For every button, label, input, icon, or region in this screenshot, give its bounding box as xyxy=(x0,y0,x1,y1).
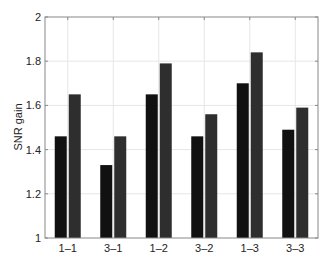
y-axis-title: SNR gain xyxy=(12,103,24,150)
y-tick-label: 1.6 xyxy=(26,99,41,111)
y-tick-label: 1.8 xyxy=(26,55,41,67)
bar-series-2 xyxy=(251,52,263,238)
bars xyxy=(55,52,309,238)
x-tick-label: 3–1 xyxy=(104,242,122,254)
x-tick-label: 1–2 xyxy=(150,242,168,254)
gridlines xyxy=(45,17,318,238)
bar-series-2 xyxy=(296,108,308,238)
bar-series-1 xyxy=(282,130,294,238)
x-tick-label: 1–3 xyxy=(241,242,259,254)
bar-series-2 xyxy=(69,94,81,238)
bar-series-2 xyxy=(114,136,126,238)
y-tick-label: 1.4 xyxy=(26,144,41,156)
x-axis-ticks: 1–13–11–23–21–33–3 xyxy=(59,17,305,254)
x-tick-label: 3–3 xyxy=(286,242,304,254)
bar-series-2 xyxy=(160,63,172,238)
bar-series-1 xyxy=(55,136,67,238)
y-tick-label: 2 xyxy=(35,11,41,23)
bar-series-1 xyxy=(237,83,249,238)
plot-area-frame xyxy=(45,17,318,238)
x-tick-label: 1–1 xyxy=(59,242,77,254)
y-tick-label: 1.2 xyxy=(26,188,41,200)
bar-series-1 xyxy=(146,94,158,238)
bar-chart: 11.21.41.61.82 1–13–11–23–21–33–3 SNR ga… xyxy=(0,0,332,264)
bar-series-1 xyxy=(100,165,112,238)
x-tick-label: 3–2 xyxy=(195,242,213,254)
y-tick-label: 1 xyxy=(35,232,41,244)
bar-series-2 xyxy=(205,114,217,238)
bar-series-1 xyxy=(191,136,203,238)
